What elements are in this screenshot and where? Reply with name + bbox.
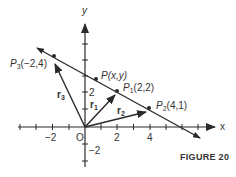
point-label-p1: P1(2,2)	[123, 83, 154, 94]
x-tick-label-2: 2	[114, 133, 120, 143]
point-p3	[52, 54, 56, 58]
origin-label: O	[76, 133, 84, 143]
y-tick-label-2: 2	[89, 88, 95, 98]
point-p2	[147, 106, 151, 110]
point-label-p3: P3(−2,4)	[10, 59, 47, 70]
x-tick-label-neg2: −2	[45, 133, 56, 143]
point-label-p: P(x,y)	[101, 71, 127, 81]
figure-canvas	[0, 0, 236, 177]
point-p	[94, 77, 98, 81]
x-tick-label-4: 4	[147, 133, 153, 143]
vector-r2	[85, 112, 146, 127]
x-axis-label: x	[220, 122, 225, 132]
figure-caption: FIGURE 20	[180, 152, 229, 162]
point-label-p2: P2(4,1)	[156, 101, 187, 112]
y-tick-label-neg2: −2	[89, 146, 100, 156]
x-axis	[18, 124, 215, 130]
y-axis	[82, 24, 88, 167]
point-p1	[115, 89, 119, 93]
vector-label-r3: r3	[57, 90, 65, 101]
vector-label-r2: r2	[117, 106, 125, 117]
vector-label-r1: r1	[90, 100, 98, 111]
y-axis-label: y	[82, 6, 87, 16]
